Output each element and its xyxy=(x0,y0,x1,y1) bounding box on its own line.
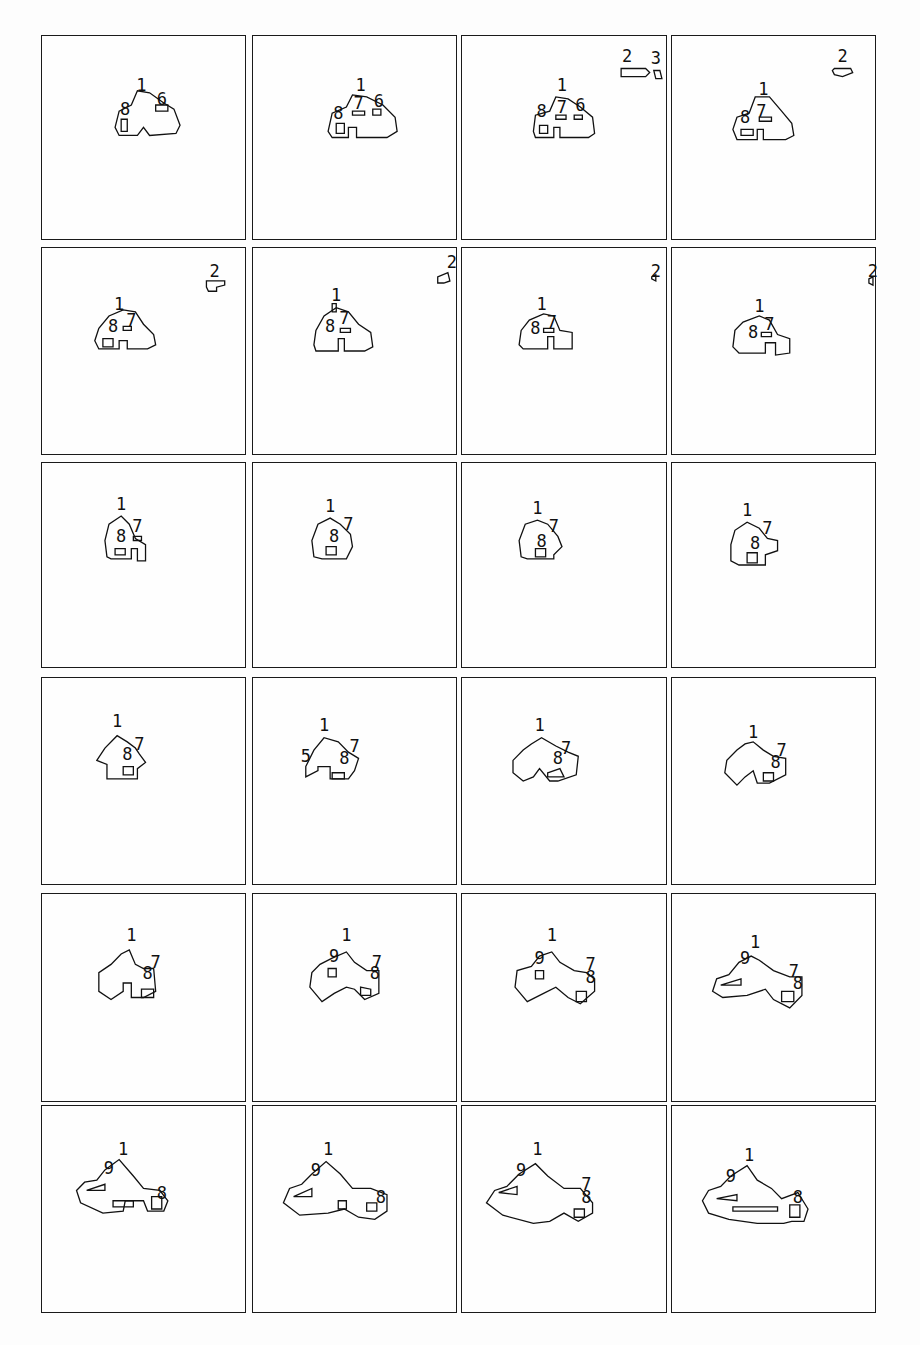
panel-20: 1987 xyxy=(671,893,876,1102)
region-label: 8 xyxy=(120,101,130,118)
region-label: 1 xyxy=(532,499,542,516)
region-label: 7 xyxy=(343,516,353,533)
panel-19: 1987 xyxy=(461,893,667,1102)
region-outlines xyxy=(42,678,245,884)
region-outlines xyxy=(672,248,875,454)
region-label: 1 xyxy=(325,497,335,514)
region-label: 2 xyxy=(209,262,219,279)
region-outlines xyxy=(672,463,875,667)
region-label: 8 xyxy=(740,109,750,126)
region-outline xyxy=(294,1188,312,1196)
region-label: 7 xyxy=(776,742,786,759)
region-label: 8 xyxy=(530,320,540,337)
satellite-region-outline xyxy=(621,68,650,76)
region-label: 1 xyxy=(126,927,136,944)
region-label: 6 xyxy=(374,92,384,109)
region-outline xyxy=(540,125,548,133)
panel-9: 187 xyxy=(41,462,246,668)
region-outlines xyxy=(253,463,456,667)
region-label: 8 xyxy=(122,746,132,763)
satellite-region-outline xyxy=(832,68,852,76)
region-label: 1 xyxy=(536,295,546,312)
panel-8: 1872 xyxy=(671,247,876,455)
region-label: 7 xyxy=(547,314,557,331)
region-label: 1 xyxy=(341,927,351,944)
region-label: 2 xyxy=(837,48,847,65)
region-label: 6 xyxy=(157,90,167,107)
region-label: 7 xyxy=(349,737,359,754)
region-label: 8 xyxy=(748,324,758,341)
region-outline xyxy=(123,767,133,775)
region-label: 7 xyxy=(789,962,799,979)
region-label: 1 xyxy=(323,1141,333,1158)
region-outlines xyxy=(42,894,245,1101)
region-outlines xyxy=(462,463,666,667)
panel-18: 1987 xyxy=(252,893,457,1102)
satellite-region-outline xyxy=(206,281,224,291)
region-outlines xyxy=(462,678,666,884)
region-label: 7 xyxy=(756,103,766,120)
region-label: 7 xyxy=(339,310,349,327)
region-label: 1 xyxy=(319,717,329,734)
region-outlines xyxy=(253,678,456,884)
panel-11: 187 xyxy=(461,462,667,668)
region-outline xyxy=(574,115,582,119)
region-label: 7 xyxy=(151,954,161,971)
region-outline xyxy=(747,553,757,563)
panel-10: 187 xyxy=(252,462,457,668)
region-label: 1 xyxy=(557,76,567,93)
region-label: 7 xyxy=(557,99,567,116)
satellite-region-outline xyxy=(438,273,450,283)
panel-1: 186 xyxy=(41,35,246,240)
region-outlines xyxy=(672,36,875,239)
region-outlines xyxy=(42,1106,245,1312)
region-outline xyxy=(121,119,127,131)
region-outlines xyxy=(253,36,456,239)
region-label: 8 xyxy=(793,1188,803,1205)
region-outlines xyxy=(672,678,875,884)
panel-21: 198 xyxy=(41,1105,246,1313)
region-outline xyxy=(519,314,572,349)
panel-2: 1876 xyxy=(252,35,457,240)
region-outline xyxy=(113,1201,133,1207)
region-outline xyxy=(763,773,773,781)
region-label: 9 xyxy=(516,1161,526,1178)
panel-24: 198 xyxy=(671,1105,876,1313)
region-label: 7 xyxy=(762,520,772,537)
region-outline xyxy=(115,549,125,555)
region-label: 8 xyxy=(325,318,335,335)
region-outline xyxy=(721,979,741,985)
panel-4: 1872 xyxy=(671,35,876,240)
region-outline xyxy=(87,1184,105,1190)
region-outlines xyxy=(462,894,666,1101)
region-label: 1 xyxy=(534,717,544,734)
region-label: 7 xyxy=(134,735,144,752)
region-label: 1 xyxy=(758,80,768,97)
region-label: 5 xyxy=(301,748,311,765)
region-label: 7 xyxy=(353,94,363,111)
region-outline xyxy=(328,969,336,977)
region-outline xyxy=(782,991,794,1001)
region-label: 2 xyxy=(622,48,632,65)
region-outline xyxy=(717,1195,737,1201)
region-label: 9 xyxy=(740,950,750,967)
region-label: 7 xyxy=(126,312,136,329)
region-label: 1 xyxy=(744,1147,754,1164)
region-outline xyxy=(336,123,344,133)
panel-13: 187 xyxy=(41,677,246,885)
region-label: 9 xyxy=(534,950,544,967)
region-label: 7 xyxy=(581,1176,591,1193)
region-outlines xyxy=(253,1106,456,1312)
region-outlines xyxy=(462,36,666,239)
region-outlines xyxy=(462,1106,666,1312)
panel-16: 187 xyxy=(671,677,876,885)
panel-12: 187 xyxy=(671,462,876,668)
region-outline xyxy=(133,536,141,540)
region-label: 2 xyxy=(651,262,661,279)
region-label: 7 xyxy=(132,518,142,535)
region-label: 8 xyxy=(108,318,118,335)
region-label: 8 xyxy=(536,532,546,549)
region-label: 1 xyxy=(331,287,341,304)
region-label: 1 xyxy=(136,76,146,93)
region-outline xyxy=(310,952,379,1002)
